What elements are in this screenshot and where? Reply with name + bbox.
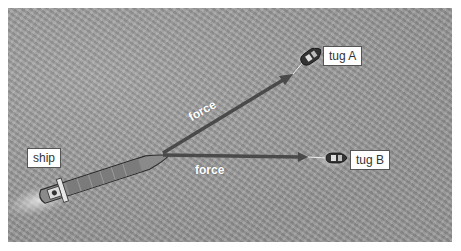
ship-label: ship — [27, 148, 61, 168]
force-arrow-to-tug-a — [163, 61, 304, 153]
force-label-tug-b: force — [195, 163, 224, 177]
tug-a-label: tug A — [323, 46, 362, 66]
force-arrow-to-tug-b — [163, 152, 326, 162]
tug-b-icon — [326, 153, 347, 163]
tug-b-label: tug B — [350, 150, 390, 170]
diagram-canvas — [0, 0, 461, 251]
